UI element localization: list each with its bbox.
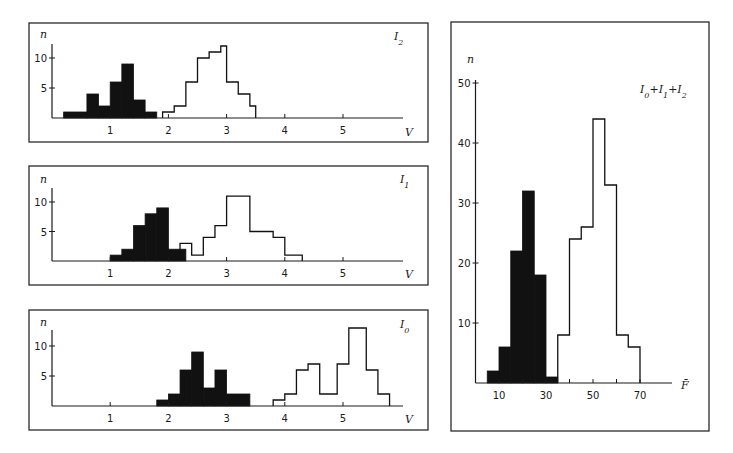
open-histogram-outline [273, 328, 389, 406]
y-tick-label: 5 [41, 227, 47, 238]
histogram-panel-1: 12345510VnI2 [29, 23, 428, 142]
x-tick-label: 3 [223, 125, 229, 136]
x-tick-label: 1 [107, 413, 113, 424]
filled-bar [168, 394, 180, 406]
y-tick-label: 10 [34, 197, 47, 208]
x-tick-label: 3 [223, 413, 229, 424]
y-tick-label: 5 [41, 83, 47, 94]
filled-bar [133, 226, 145, 261]
y-tick-label: 30 [458, 198, 471, 209]
x-tick-label: 1 [107, 268, 113, 279]
y-tick-label: 40 [458, 138, 471, 149]
histogram-panel-4: 103050701020304050F̄nI0+I1+I2 [451, 22, 709, 431]
y-tick-label: 5 [41, 371, 47, 382]
x-tick-label: 4 [282, 268, 288, 279]
filled-bar [192, 352, 204, 406]
histogram-figure: 12345510VnI212345510VnI112345510VnI01030… [0, 0, 733, 453]
filled-bar [64, 112, 87, 118]
x-tick-label: 5 [340, 413, 346, 424]
filled-bar [157, 208, 169, 261]
x-tick-label: 4 [282, 413, 288, 424]
filled-bar [145, 112, 157, 118]
y-axis-label: n [40, 173, 47, 186]
filled-bar [546, 377, 558, 383]
histogram-panel-3: 12345510VnI0 [29, 310, 428, 430]
panel-label: I0+I1+I2 [639, 83, 687, 100]
x-tick-label: 3 [223, 268, 229, 279]
y-axis-label: n [40, 28, 47, 41]
y-tick-label: 20 [458, 258, 471, 269]
filled-bar [157, 400, 169, 406]
y-axis-label: n [467, 53, 474, 66]
panel-label: I1 [399, 173, 409, 190]
y-tick-label: 10 [34, 53, 47, 64]
y-axis-label: n [40, 316, 47, 329]
y-tick-label: 50 [458, 78, 471, 89]
filled-bar [145, 214, 157, 261]
x-tick-label: 50 [587, 390, 600, 401]
filled-bar [87, 94, 99, 118]
x-tick-label: 30 [540, 390, 553, 401]
open-histogram-outline [163, 46, 256, 118]
y-tick-label: 10 [34, 341, 47, 352]
filled-bar [133, 100, 145, 118]
filled-bar [99, 106, 111, 118]
filled-bar [110, 255, 122, 261]
filled-bar [523, 191, 535, 383]
x-tick-label: 2 [165, 413, 171, 424]
x-axis-label: V [405, 126, 414, 139]
x-tick-label: 70 [634, 390, 647, 401]
x-axis-label: V [405, 268, 414, 281]
open-histogram-outline [180, 196, 302, 261]
x-tick-label: 5 [340, 125, 346, 136]
y-tick-label: 10 [458, 318, 471, 329]
histogram-panel-2: 12345510VnI1 [29, 166, 428, 285]
open-histogram-outline [558, 119, 640, 383]
x-tick-label: 10 [493, 390, 506, 401]
filled-bar [168, 249, 185, 261]
panel-label: I2 [393, 30, 403, 47]
filled-bar [499, 347, 511, 383]
filled-bar [511, 251, 523, 383]
x-axis-label: F̄ [680, 379, 689, 392]
filled-bar [203, 388, 215, 406]
filled-bar [122, 249, 134, 261]
filled-bar [215, 370, 227, 406]
filled-bar [180, 370, 192, 406]
filled-bar [122, 64, 134, 118]
x-axis-label: V [405, 413, 414, 426]
panel-label: I0 [399, 318, 409, 335]
filled-bar [534, 275, 546, 383]
x-tick-label: 2 [165, 268, 171, 279]
x-tick-label: 5 [340, 268, 346, 279]
x-tick-label: 2 [165, 125, 171, 136]
filled-bar [487, 371, 499, 383]
filled-bar [110, 82, 122, 118]
filled-bar [227, 394, 250, 406]
x-tick-label: 1 [107, 125, 113, 136]
x-tick-label: 4 [282, 125, 288, 136]
